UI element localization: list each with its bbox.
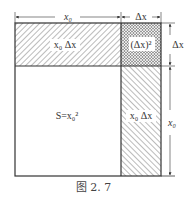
label-top-dx: Δx: [135, 11, 146, 22]
label-right-rect: x₀ Δx: [130, 110, 152, 121]
label-corner-square: (Δx)²: [130, 39, 151, 51]
label-right-dx: Δx: [172, 39, 183, 50]
label-top-rect: x₀ Δx: [54, 39, 76, 50]
label-main-square: S=x₀²: [56, 110, 79, 121]
label-top-x0: x₀: [63, 11, 72, 22]
area-diagram: x₀ Δx Δx x₀ x₀ Δx (Δx)² S=x₀² x₀ Δx: [0, 0, 187, 202]
main-square-region: [15, 66, 121, 176]
label-right-x0: x₀: [167, 117, 176, 128]
figure-caption: 图 2. 7: [0, 178, 187, 194]
